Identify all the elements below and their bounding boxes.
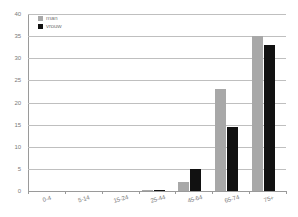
x-axis-tick-label: 5-14: [78, 194, 91, 204]
bar-group: [65, 14, 102, 191]
bar-vrouw: [264, 45, 275, 191]
legend-swatch-icon: [38, 24, 43, 29]
bar-man: [252, 36, 263, 191]
bars-layer: [28, 14, 286, 191]
y-axis-tick-label: 10: [15, 144, 21, 150]
y-axis-tick-label: 40: [15, 11, 21, 17]
x-axis-labels: 0-45-1415-2425-4445-6465-7475+: [28, 196, 286, 216]
bar-chart: 0510152025303540 0-45-1415-2425-4445-646…: [0, 0, 298, 217]
legend-swatch-icon: [38, 16, 43, 21]
x-axis-tick-label: 75+: [263, 195, 274, 204]
x-axis-tick: [212, 191, 213, 194]
bar-group: [102, 14, 139, 191]
plot-area: [28, 14, 286, 191]
bar-vrouw: [190, 169, 201, 191]
y-axis-tick-label: 15: [15, 122, 21, 128]
bar-man: [215, 89, 226, 191]
bar-group: [28, 14, 65, 191]
bar-group: [139, 14, 176, 191]
bar-man: [178, 182, 189, 191]
x-axis-tick: [175, 191, 176, 194]
x-axis-tick-label: 0-4: [42, 195, 52, 204]
y-axis-tick-label: 35: [15, 33, 21, 39]
legend-item-vrouw[interactable]: vrouw: [38, 23, 62, 29]
x-axis-ticks: [28, 191, 286, 195]
bar-vrouw: [227, 127, 238, 191]
x-axis-tick: [28, 191, 29, 194]
y-axis-tick-label: 5: [18, 166, 21, 172]
x-axis-tick: [65, 191, 66, 194]
x-axis-tick-label: 15-24: [113, 194, 129, 205]
x-axis-tick: [249, 191, 250, 194]
y-axis-tick-label: 30: [15, 55, 21, 61]
x-axis-tick-label: 65-74: [224, 194, 240, 205]
x-axis-tick-label: 45-64: [187, 194, 203, 205]
legend-item-man[interactable]: man: [38, 15, 62, 21]
y-axis-tick-label: 20: [15, 100, 21, 106]
bar-group: [212, 14, 249, 191]
legend-label: vrouw: [46, 23, 62, 29]
bar-group: [175, 14, 212, 191]
x-axis-tick-label: 25-44: [150, 194, 166, 205]
y-axis-labels: 0510152025303540: [0, 14, 25, 191]
chart-legend: manvrouw: [38, 15, 62, 29]
x-axis-tick: [139, 191, 140, 194]
x-axis-tick: [286, 191, 287, 194]
y-axis-tick-label: 0: [18, 188, 21, 194]
legend-label: man: [46, 15, 57, 21]
y-axis-tick-label: 25: [15, 77, 21, 83]
x-axis-tick: [102, 191, 103, 194]
bar-group: [249, 14, 286, 191]
